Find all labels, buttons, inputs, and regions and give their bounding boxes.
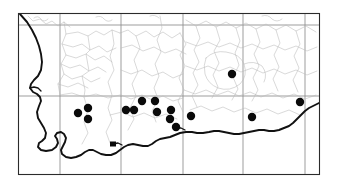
record-dot	[187, 112, 195, 120]
record-dot	[84, 115, 92, 123]
record-dot	[151, 97, 159, 105]
record-dot	[138, 97, 146, 105]
record-dot	[166, 115, 174, 123]
record-dot	[228, 70, 236, 78]
record-dot	[296, 98, 304, 106]
record-dot	[248, 113, 256, 121]
record-dot	[110, 142, 116, 147]
record-dot	[153, 108, 161, 116]
record-dot	[122, 106, 130, 114]
record-dot	[130, 106, 138, 114]
map-canvas	[0, 0, 337, 188]
record-dot	[74, 109, 82, 117]
record-dot	[84, 104, 92, 112]
record-dot	[172, 123, 180, 131]
distribution-map-figure	[0, 0, 337, 188]
record-dot	[167, 106, 175, 114]
